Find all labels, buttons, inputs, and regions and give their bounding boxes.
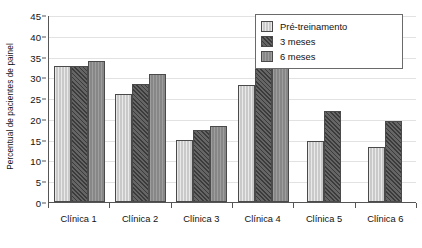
y-axis-tick-mark	[42, 203, 46, 204]
y-axis-tick-mark	[42, 57, 46, 58]
bar	[176, 140, 193, 202]
bar	[132, 84, 149, 202]
x-axis-category-text: Clínica 3	[183, 214, 219, 224]
x-axis-tick-mark	[109, 203, 110, 208]
x-axis-category-label: Clínica 2	[109, 203, 170, 233]
bar	[54, 66, 71, 202]
x-axis-tick-mark	[416, 203, 417, 208]
bar	[71, 66, 88, 202]
y-axis-tick-mark	[42, 161, 46, 162]
x-axis-category-text: Clínica 1	[61, 214, 97, 224]
legend-label: 3 meses	[280, 36, 315, 47]
legend-swatch	[261, 36, 273, 47]
y-axis-tick-label: 10	[30, 156, 41, 167]
chart-legend: Pré-treinamento3 meses6 meses	[255, 14, 403, 69]
x-axis-tick-mark	[232, 203, 233, 208]
y-axis-tick-mark	[42, 182, 46, 183]
x-axis-category-label: Clínica 5	[293, 203, 354, 233]
bar	[149, 74, 166, 202]
legend-item: Pré-treinamento	[261, 19, 397, 34]
x-axis-tick-mark	[171, 203, 172, 208]
bar	[210, 126, 227, 202]
y-axis-tick-label: 0	[36, 198, 41, 209]
y-axis-tick-mark	[42, 119, 46, 120]
bar	[238, 85, 255, 202]
bar	[115, 94, 132, 202]
x-axis-category-labels: Clínica 1Clínica 2Clínica 3Clínica 4Clín…	[48, 203, 416, 233]
bar-group	[171, 16, 232, 202]
y-axis-tick-label: 40	[30, 31, 41, 42]
x-axis-category-label: Clínica 1	[48, 203, 109, 233]
bar-group	[110, 16, 171, 202]
x-axis-category-text: Clínica 5	[306, 214, 342, 224]
y-axis-tick-mark	[42, 99, 46, 100]
legend-swatch	[261, 21, 273, 32]
legend-label: Pré-treinamento	[280, 21, 347, 32]
y-axis-tick-label: 15	[30, 135, 41, 146]
bar-group	[49, 16, 110, 202]
legend-item: 6 meses	[261, 49, 397, 64]
x-axis-category-label: Clínica 4	[232, 203, 293, 233]
x-axis-category-text: Clínica 2	[122, 214, 158, 224]
y-axis-tick-mark	[42, 140, 46, 141]
bar	[307, 141, 324, 203]
y-axis-tick-label: 5	[36, 177, 41, 188]
y-axis-tick-label: 25	[30, 94, 41, 105]
x-axis-category-text: Clínica 6	[367, 214, 403, 224]
y-axis-tick-mark	[42, 36, 46, 37]
bar-chart: Percentual de pacientes de painel 051015…	[0, 0, 422, 248]
x-axis-tick-mark	[48, 203, 49, 208]
x-axis-category-text: Clínica 4	[245, 214, 281, 224]
y-axis-tick-label: 45	[30, 11, 41, 22]
bar	[193, 130, 210, 202]
y-axis-tick-mark	[42, 16, 46, 17]
y-axis-tick-label: 20	[30, 114, 41, 125]
x-axis-category-label: Clínica 3	[171, 203, 232, 233]
legend-label: 6 meses	[280, 51, 315, 62]
y-axis-tick-labels: 051015202530354045	[20, 0, 46, 212]
y-axis-tick-mark	[42, 78, 46, 79]
y-axis-tick-label: 35	[30, 52, 41, 63]
y-axis-title: Percentual de pacientes de painel	[0, 0, 20, 212]
bar	[324, 111, 341, 202]
x-axis-category-label: Clínica 6	[355, 203, 416, 233]
y-axis-tick-label: 30	[30, 73, 41, 84]
legend-swatch	[261, 51, 273, 62]
bar	[385, 121, 402, 202]
x-axis-tick-mark	[293, 203, 294, 208]
bar	[255, 57, 272, 202]
legend-item: 3 meses	[261, 34, 397, 49]
y-axis-title-text: Percentual de pacientes de painel	[6, 43, 15, 170]
bar	[368, 147, 385, 202]
x-axis-tick-mark	[355, 203, 356, 208]
bar	[88, 61, 105, 202]
